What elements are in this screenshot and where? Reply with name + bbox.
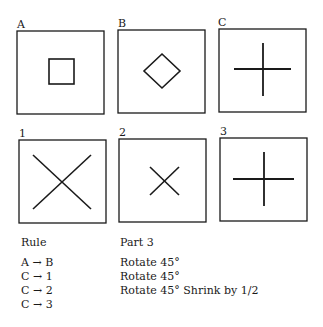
analogy-figure — [0, 0, 323, 230]
panel-label-c: C — [218, 17, 226, 28]
part-row-3: Rotate 45° Shrink by 1/2 — [120, 285, 258, 297]
part-row-1: Rotate 45° — [120, 257, 180, 269]
rule-header: Rule — [21, 237, 46, 249]
rule-row-2: C → 1 — [21, 271, 53, 283]
panel-1-x-shape — [33, 155, 91, 209]
rule-row-1: A → B — [21, 257, 53, 269]
rule-row-3: C → 2 — [21, 285, 53, 297]
panel-2-small-x-shape — [150, 167, 179, 195]
panel-b-frame — [118, 30, 205, 113]
panel-label-a: A — [17, 19, 25, 30]
panel-label-2: 2 — [119, 127, 126, 138]
rule-row-4: C → 3 — [21, 299, 53, 311]
panel-label-b: B — [118, 18, 126, 29]
panel-3-plus-shape — [233, 152, 294, 206]
panel-a-square-shape — [49, 59, 74, 84]
panel-label-3: 3 — [220, 126, 227, 137]
panel-a-frame — [17, 31, 104, 114]
panel-label-1: 1 — [19, 128, 26, 139]
part-header: Part 3 — [120, 237, 154, 249]
panel-2-frame — [119, 139, 206, 222]
panel-b-diamond-shape — [144, 54, 180, 88]
panel-c-plus-shape — [234, 43, 291, 96]
part-row-2: Rotate 45° — [120, 271, 180, 283]
